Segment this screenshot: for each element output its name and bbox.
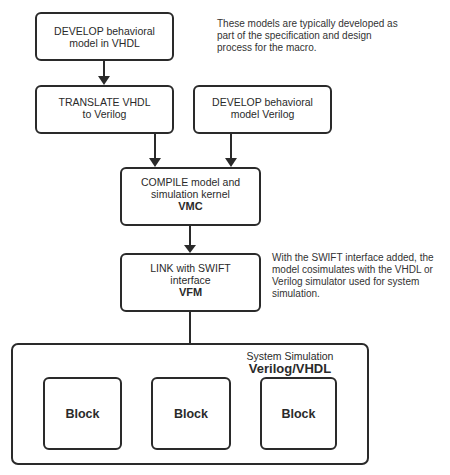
link-box: LINK with SWIFT interface VFM	[120, 253, 261, 312]
middle-note-line-3: Verilog simulator used for system	[272, 276, 450, 288]
develop-vhdl-line-1: DEVELOP behavioral	[54, 25, 155, 37]
translate-box: TRANSLATE VHDL to Verilog	[35, 85, 174, 134]
develop-vhdl-box: DEVELOP behavioral model in VHDL	[35, 12, 174, 61]
compile-tag: VMC	[178, 200, 202, 212]
develop-vhdl-line-2: model in VHDL	[69, 37, 140, 49]
link-line-1: LINK with SWIFT	[150, 262, 231, 274]
middle-note: With the SWIFT interface added, the mode…	[272, 252, 450, 300]
middle-note-line-4: simulation.	[272, 288, 450, 300]
system-subtitle: Verilog/VHDL	[230, 362, 350, 376]
block-3-label: Block	[281, 407, 315, 421]
middle-note-line-2: model cosimulates with the VHDL or	[272, 264, 450, 276]
compile-line-2: simulation kernel	[151, 188, 230, 200]
link-tag: VFM	[179, 286, 202, 298]
block-1-label: Block	[65, 407, 99, 421]
block-3: Block	[260, 377, 337, 450]
top-note: These models are typically developed as …	[217, 18, 442, 54]
develop-verilog-line-1: DEVELOP behavioral	[212, 96, 313, 108]
compile-box: COMPILE model and simulation kernel VMC	[120, 167, 261, 226]
top-note-line-3: process for the macro.	[217, 42, 442, 54]
link-line-2: interface	[170, 274, 210, 286]
translate-line-1: TRANSLATE VHDL	[59, 96, 151, 108]
develop-verilog-line-2: model Verilog	[231, 108, 295, 120]
block-2-label: Block	[174, 407, 208, 421]
top-note-line-1: These models are typically developed as	[217, 18, 442, 30]
middle-note-line-1: With the SWIFT interface added, the	[272, 252, 450, 264]
top-note-line-2: part of the specification and design	[217, 30, 442, 42]
block-2: Block	[151, 377, 231, 450]
translate-line-2: to Verilog	[83, 108, 127, 120]
system-simulation-title: System Simulation Verilog/VHDL	[230, 350, 350, 376]
block-1: Block	[43, 377, 122, 450]
compile-line-1: COMPILE model and	[141, 176, 240, 188]
develop-verilog-box: DEVELOP behavioral model Verilog	[193, 85, 332, 134]
